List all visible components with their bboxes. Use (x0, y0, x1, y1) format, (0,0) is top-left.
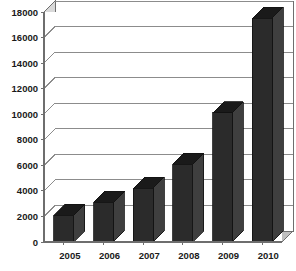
y-axis-tick-label: 8000 (17, 134, 38, 145)
x-axis-tick-label: 2007 (139, 250, 160, 261)
y-axis-tick-label: 0 (33, 237, 38, 248)
y-axis-tick-label: 12000 (12, 83, 38, 94)
y-axis-tick-label: 10000 (12, 109, 38, 120)
x-axis-tick-label: 2006 (99, 250, 120, 261)
y-axis-tick-label: 4000 (17, 185, 38, 196)
x-axis-tick-label: 2010 (258, 250, 279, 261)
x-axis-tick-label: 2005 (59, 250, 81, 261)
x-axis-tick-label: 2008 (178, 250, 199, 261)
y-axis-tick-label: 14000 (12, 58, 38, 69)
y-axis-tick-label: 18000 (12, 7, 38, 18)
chart-canvas: 0200040006000800010000120001400016000180… (0, 0, 296, 271)
y-axis-tick-label: 16000 (12, 32, 38, 43)
y-axis-tick-label: 6000 (17, 160, 38, 171)
x-axis-tick-label: 2009 (218, 250, 239, 261)
bar-chart: 0200040006000800010000120001400016000180… (0, 0, 296, 271)
y-axis-tick-label: 2000 (17, 211, 38, 222)
